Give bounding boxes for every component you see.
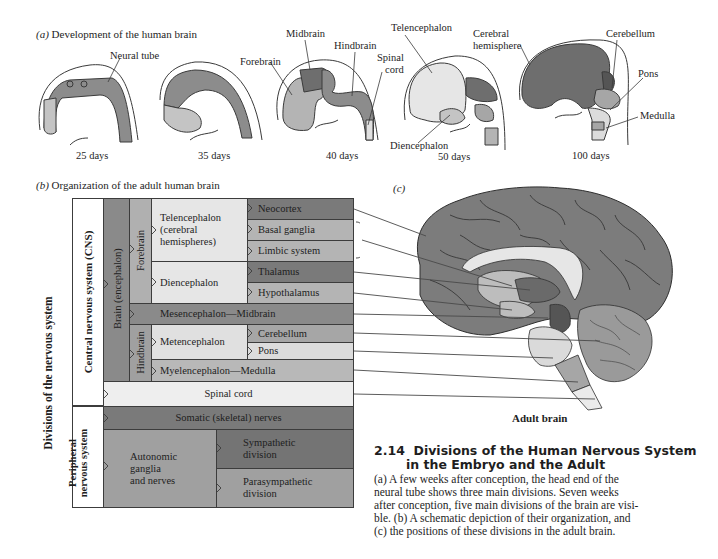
- adult-brain-illustration: [0, 0, 718, 420]
- caption-body-line: after conception, five main divisions of…: [374, 499, 704, 512]
- caption-body-line: neural tube shows three main divisions. …: [374, 486, 704, 499]
- cerebellum-shape: [578, 305, 653, 382]
- caption-title-line1: 2.14 Divisions of the Human Nervous Syst…: [374, 444, 704, 458]
- caption-body-line: (a) A few weeks after conception, the he…: [374, 473, 704, 486]
- figure-number: 2.14: [374, 443, 405, 458]
- adult-brain-caption: Adult brain: [512, 412, 567, 424]
- caption-title-text-1: Divisions of the Human Nervous System: [414, 443, 697, 458]
- figure-caption: 2.14 Divisions of the Human Nervous Syst…: [374, 444, 704, 538]
- caption-title-line2: in the Embryo and the Adult: [374, 458, 704, 472]
- caption-body-line: (c) the positions of these divisions in …: [374, 525, 704, 538]
- caption-body: (a) A few weeks after conception, the he…: [374, 473, 704, 538]
- caption-body-line: ble. (b) A schematic depiction of their …: [374, 512, 704, 525]
